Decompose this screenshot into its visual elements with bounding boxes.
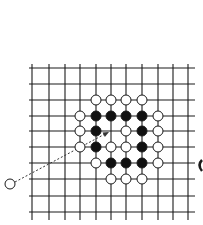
white-stone	[106, 95, 116, 105]
white-stone	[106, 174, 116, 184]
black-stone	[137, 111, 147, 121]
black-stone	[106, 111, 116, 121]
white-stone	[121, 95, 131, 105]
white-stone	[75, 126, 85, 136]
white-stone	[137, 95, 147, 105]
move-arrow	[15, 132, 109, 182]
black-stone	[106, 158, 116, 168]
white-stone	[121, 126, 131, 136]
black-stone	[91, 111, 101, 121]
white-stone	[153, 126, 163, 136]
black-stone	[91, 126, 101, 136]
stones	[75, 95, 163, 184]
white-stone	[91, 158, 101, 168]
white-stone	[121, 174, 131, 184]
white-stone	[153, 158, 163, 168]
black-stone	[137, 126, 147, 136]
black-stone	[137, 158, 147, 168]
white-stone	[106, 142, 116, 152]
white-stone	[5, 179, 15, 189]
white-stone	[75, 142, 85, 152]
outside-stone	[5, 179, 15, 189]
white-stone	[75, 111, 85, 121]
white-stone	[121, 142, 131, 152]
black-stone	[91, 142, 101, 152]
white-stone	[137, 174, 147, 184]
black-stone	[121, 111, 131, 121]
go-board-diagram	[0, 0, 203, 225]
dotted-arrow-line	[15, 134, 105, 182]
white-stone	[91, 95, 101, 105]
black-stone	[137, 142, 147, 152]
cut-off-label-mark	[200, 160, 203, 171]
black-stone	[121, 158, 131, 168]
white-stone	[153, 142, 163, 152]
white-stone	[153, 111, 163, 121]
